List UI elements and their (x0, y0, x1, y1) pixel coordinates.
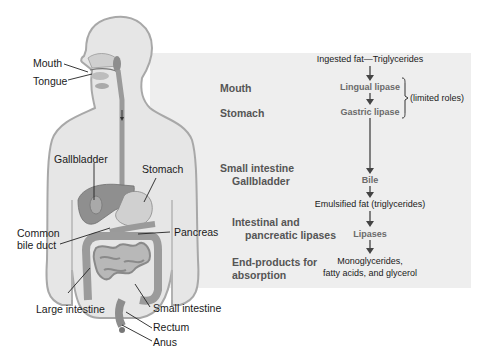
flow-lipases: Lipases (353, 229, 387, 240)
label-mouth: Mouth (33, 57, 62, 69)
label-rectum: Rectum (153, 321, 189, 333)
gallbladder (90, 196, 102, 214)
anus (119, 327, 125, 333)
label-tongue: Tongue (33, 75, 67, 87)
stage-intestinal-and: Intestinal and (232, 216, 300, 229)
flow-end-products-2: fatty acids, and glycerol (323, 268, 417, 279)
label-large-intestine: Large intestine (36, 303, 105, 315)
stage-stomach: Stomach (220, 107, 264, 120)
rectum (119, 300, 122, 326)
flow-bile: Bile (362, 175, 379, 186)
stage-gallbladder: Gallbladder (232, 175, 290, 188)
flow-gastric-lipase: Gastric lipase (340, 107, 399, 118)
label-anus: Anus (153, 336, 177, 348)
stage-end-products: End-products for (232, 256, 317, 269)
label-pancreas: Pancreas (174, 226, 218, 238)
flow-end-products-1: Monoglycerides, (337, 256, 403, 267)
label-common-bile-duct-1: Common (17, 227, 60, 239)
limited-roles-bracket (402, 78, 408, 118)
label-gallbladder: Gallbladder (54, 153, 108, 165)
flow-limited-roles: (limited roles) (410, 93, 464, 103)
stage-small-intestine: Small intestine (220, 162, 294, 175)
stage-absorption: absorption (232, 269, 286, 282)
flow-emulsified-fat: Emulsified fat (triglycerides) (315, 199, 426, 210)
flow-lingual-lipase: Lingual lipase (340, 82, 400, 93)
label-stomach: Stomach (142, 163, 183, 175)
flow-arrows (366, 66, 374, 254)
stage-pancreatic-lipases: pancreatic lipases (245, 229, 336, 242)
stage-mouth: Mouth (220, 82, 252, 95)
label-common-bile-duct-2: bile duct (17, 239, 56, 251)
label-small-intestine: Small intestine (153, 302, 221, 314)
flow-ingested-fat: Ingested fat—Triglycerides (317, 54, 424, 65)
